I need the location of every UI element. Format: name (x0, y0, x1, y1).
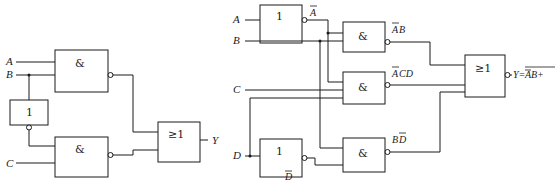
bd-label-d: D (398, 134, 407, 145)
left-or-symbol: ≥1 (168, 128, 184, 141)
left-not-symbol: 1 (26, 106, 33, 119)
junction-d (249, 155, 252, 158)
left-bottom-and-symbol: & (75, 143, 85, 156)
left-input-c-label: C (6, 157, 14, 169)
right-not-a-bubble (302, 18, 307, 23)
right-input-b-label: B (233, 34, 240, 46)
expr-plus1: + (537, 69, 544, 80)
right-or-symbol: ≥1 (475, 62, 491, 75)
wire-top-and-to-or (113, 75, 158, 132)
wire-bottom-and-to-or (113, 150, 158, 155)
acd-label-cd: CD (399, 68, 414, 79)
right-or-bubble (505, 73, 510, 78)
ab-label-a: A (391, 24, 399, 35)
and-ab-bubble (385, 40, 390, 45)
junction-b (28, 74, 31, 77)
right-not-a-symbol: 1 (276, 10, 283, 23)
wire-dbar-to-bd (307, 158, 343, 165)
and-acd-bubble (385, 83, 390, 88)
right-circuit: A B C D 1 A 1 D (232, 5, 555, 182)
left-input-a-label: A (5, 55, 13, 67)
left-top-and-symbol: & (75, 57, 85, 70)
right-input-c-label: C (233, 83, 241, 95)
left-bottom-and-bubble (108, 153, 113, 158)
left-input-b-label: B (6, 68, 13, 80)
and-bd-bubble (385, 150, 390, 155)
wire-ab-to-or (390, 42, 465, 65)
right-not-d-bubble (302, 156, 307, 161)
right-input-d-label: D (232, 149, 241, 161)
left-circuit: A B C 1 & & ≥1 Y (5, 50, 220, 177)
not-a-output-label: A (309, 7, 317, 18)
and-ab-symbol: & (358, 30, 368, 43)
expr-prefix: Y= (513, 69, 525, 80)
and-bd-symbol: & (358, 147, 368, 160)
junction-b-right (319, 40, 322, 43)
right-input-a-label: A (232, 13, 240, 25)
not-d-output-label: D (284, 171, 293, 182)
logic-diagrams: A B C 1 & & ≥1 Y (0, 0, 555, 183)
left-top-and-bubble (108, 73, 113, 78)
ab-label-b: B (399, 24, 405, 35)
output-expression: Y= A B + (513, 69, 544, 80)
junction-abar (327, 32, 330, 35)
left-output-label: Y (212, 134, 220, 146)
bd-label-b: B (392, 134, 398, 145)
acd-label-a: A (391, 68, 399, 79)
and-acd-symbol: & (358, 81, 368, 94)
left-not-bubble (27, 125, 32, 130)
right-not-d-symbol: 1 (276, 145, 283, 158)
